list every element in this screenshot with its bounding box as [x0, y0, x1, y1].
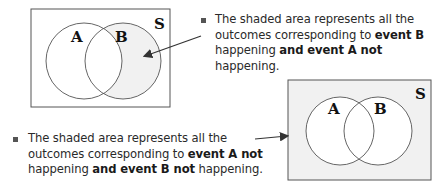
- caption-1-line-2: outcomes corresponding to event B: [215, 28, 439, 44]
- label-a: A: [327, 100, 340, 118]
- label-a: A: [70, 28, 83, 46]
- label-s: S: [415, 85, 426, 103]
- bullet-1: [201, 18, 206, 23]
- caption-2-line-3: happening and event B not happening.: [28, 162, 263, 178]
- venn-diagram-1: A B S: [31, 9, 201, 107]
- venn-diagram-2: A B S: [255, 80, 431, 180]
- caption-2-line-1: The shaded area represents all the: [28, 131, 263, 147]
- caption-2: The shaded area represents all the outco…: [28, 131, 263, 178]
- caption-1: The shaded area represents all the outco…: [215, 12, 439, 74]
- caption-1-line-1: The shaded area represents all the: [215, 12, 439, 28]
- label-b: B: [115, 28, 128, 46]
- label-b: B: [374, 100, 387, 118]
- bullet-2: [13, 137, 18, 142]
- caption-1-line-3: happening and event A not happening.: [215, 43, 439, 74]
- label-s: S: [154, 15, 165, 33]
- caption-2-line-2: outcomes corresponding to event A not: [28, 147, 263, 163]
